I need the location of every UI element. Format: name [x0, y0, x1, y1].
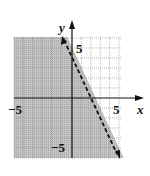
x-neg-tick-label: −5 [8, 103, 22, 116]
y-axis-arrow-icon [69, 20, 75, 29]
y-axis-label: y [59, 21, 65, 34]
x-pos-tick-label: 5 [113, 103, 120, 116]
y-pos-tick-label: 5 [76, 42, 83, 55]
x-axis-label: x [137, 103, 144, 116]
graph [0, 0, 150, 176]
x-axis-arrow-icon [135, 95, 144, 101]
y-neg-tick-label: −5 [51, 141, 65, 154]
